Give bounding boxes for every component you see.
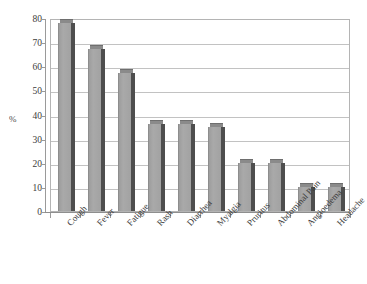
bar[interactable] xyxy=(148,120,165,211)
y-axis-tick-label: 0 xyxy=(22,207,42,217)
bar-top xyxy=(60,19,73,23)
y-axis-tick-mark xyxy=(41,188,46,189)
bar-top xyxy=(90,45,103,49)
bar-face xyxy=(58,23,71,211)
y-axis-tick-label: 10 xyxy=(22,183,42,193)
y-axis-tick-label: 40 xyxy=(22,111,42,121)
plot-area xyxy=(50,19,350,212)
bar-top xyxy=(150,120,163,124)
bar[interactable] xyxy=(268,159,285,211)
y-axis-tick-label: 60 xyxy=(22,62,42,72)
bar-side xyxy=(71,23,75,211)
bar[interactable] xyxy=(178,120,195,211)
y-axis-tick-mark xyxy=(41,91,46,92)
bar-side xyxy=(251,163,255,211)
bars-layer xyxy=(51,20,349,211)
bar[interactable] xyxy=(208,123,225,211)
bar-top xyxy=(210,123,223,127)
bar-side xyxy=(161,124,165,211)
y-axis-tick-mark xyxy=(41,116,46,117)
bar-top xyxy=(270,159,283,163)
bar-face xyxy=(88,49,101,211)
bar-side xyxy=(131,73,135,211)
bar-top xyxy=(240,159,253,163)
y-axis-tick-label: 30 xyxy=(22,135,42,145)
bar-face xyxy=(148,124,161,211)
y-axis-tick-mark xyxy=(41,164,46,165)
x-axis-tick-mark xyxy=(50,213,51,218)
bar[interactable] xyxy=(118,69,135,211)
y-axis-tick-label: 70 xyxy=(22,38,42,48)
bar-face xyxy=(208,127,221,211)
y-axis-tick-mark xyxy=(41,67,46,68)
y-axis-tick-labels: 80706050403020100 xyxy=(22,12,42,218)
y-axis-tick-label: 80 xyxy=(22,14,42,24)
bar-face xyxy=(118,73,131,211)
bar[interactable] xyxy=(58,19,75,211)
y-axis-tick-mark xyxy=(41,43,46,44)
y-axis-title: % xyxy=(9,114,17,124)
bar-side xyxy=(281,163,285,211)
bar-chart: % 80706050403020100 CoughFeverFatigueRas… xyxy=(0,0,367,284)
bar-side xyxy=(101,49,105,211)
y-axis-tick-mark xyxy=(41,19,46,20)
bar-face xyxy=(178,124,191,211)
y-axis-tick-mark xyxy=(41,140,46,141)
bar-top xyxy=(120,69,133,73)
bar-side xyxy=(221,127,225,211)
y-axis-tick-label: 20 xyxy=(22,159,42,169)
bar-side xyxy=(341,187,345,211)
bar[interactable] xyxy=(88,45,105,211)
bar-top xyxy=(180,120,193,124)
y-axis-tick-label: 50 xyxy=(22,86,42,96)
bar-side xyxy=(191,124,195,211)
